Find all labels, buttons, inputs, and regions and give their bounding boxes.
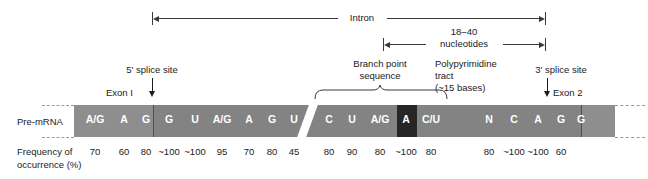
- sequence-base: A/G: [213, 113, 232, 125]
- frequency-value: 90: [347, 146, 358, 157]
- frequency-value: 80: [484, 146, 495, 157]
- exon2-block: [581, 105, 615, 137]
- sequence-base: C: [325, 113, 333, 125]
- sequence-base: U: [290, 113, 298, 125]
- frequency-row-label-line1: Frequency of: [17, 146, 72, 157]
- pre-mrna-splicing-diagram: Intron 18–40 nucleotides Branch point se…: [0, 0, 648, 179]
- nucleotides-line-left: [389, 44, 426, 45]
- branch-point-label-line2: sequence: [359, 70, 400, 81]
- sequence-base: G: [165, 113, 173, 125]
- three-prime-splice-site-arrowhead: [544, 91, 550, 97]
- intron-line-right: [387, 18, 539, 19]
- frequency-value: 60: [119, 146, 130, 157]
- sequence-base: G: [577, 113, 585, 125]
- exon1-label: Exon I: [106, 87, 133, 98]
- sequence-base: A: [534, 113, 542, 125]
- frequency-value: 70: [90, 146, 101, 157]
- frequency-value: 70: [244, 146, 255, 157]
- sequence-base: G: [268, 113, 276, 125]
- pre-mrna-row-label: Pre-mRNA: [17, 116, 63, 127]
- dashed-line-bottom-right: [615, 137, 645, 138]
- frequency-row-label-line2: occurrence (%): [17, 159, 81, 170]
- sequence-base: A/G: [86, 113, 105, 125]
- branch-point-label-line1: Branch point: [353, 58, 406, 69]
- sequence-base: U: [348, 113, 356, 125]
- frequency-value: 45: [289, 146, 300, 157]
- frequency-value: 60: [556, 146, 567, 157]
- frequency-value: 80: [267, 146, 278, 157]
- five-prime-splice-site-arrowhead: [149, 91, 155, 97]
- sequence-base: G: [557, 113, 565, 125]
- dashed-line-bottom-left: [42, 137, 74, 138]
- frequency-value: ~100: [395, 146, 416, 157]
- sequence-base: C/U: [422, 113, 440, 125]
- sequence-base: A: [402, 113, 410, 125]
- dashed-line-top-left: [42, 105, 74, 106]
- nucleotides-line-right: [503, 44, 539, 45]
- dashed-line-top-right: [615, 105, 645, 106]
- frequency-value: ~100: [158, 146, 179, 157]
- frequency-value: ~100: [503, 146, 524, 157]
- five-prime-junction-divider: [153, 105, 154, 137]
- five-prime-splice-site-label: 5' splice site: [126, 64, 177, 75]
- frequency-value: 80: [426, 146, 437, 157]
- intron-right-tick: [545, 12, 546, 25]
- sequence-base: A: [120, 113, 128, 125]
- sequence-base: A/G: [371, 113, 390, 125]
- frequency-value: 80: [324, 146, 335, 157]
- exon2-label: Exon 2: [553, 87, 583, 98]
- intron-line-left: [158, 18, 338, 19]
- nucleotide-count-label: 18–40: [451, 26, 477, 37]
- sequence-base: U: [191, 113, 199, 125]
- polypyrimidine-label-line2: tract: [435, 70, 453, 81]
- sequence-base: N: [485, 113, 493, 125]
- three-prime-splice-site-stem: [547, 78, 548, 92]
- frequency-value: ~100: [527, 146, 548, 157]
- nucleotides-right-tick: [545, 38, 546, 51]
- frequency-value: 80: [141, 146, 152, 157]
- three-prime-splice-site-label: 3' splice site: [535, 64, 586, 75]
- nucleotides-label: nucleotides: [440, 38, 488, 49]
- frequency-value: ~100: [184, 146, 205, 157]
- polypyrimidine-label-line1: Polypyrimidine: [435, 58, 497, 69]
- sequence-base: G: [142, 113, 150, 125]
- polypyrimidine-label-line3: (~15 bases): [435, 82, 485, 93]
- frequency-value: 95: [217, 146, 228, 157]
- intron-label: Intron: [350, 12, 374, 23]
- five-prime-splice-site-stem: [152, 78, 153, 92]
- frequency-value: 80: [375, 146, 386, 157]
- sequence-base: C: [510, 113, 518, 125]
- sequence-base: A: [245, 113, 253, 125]
